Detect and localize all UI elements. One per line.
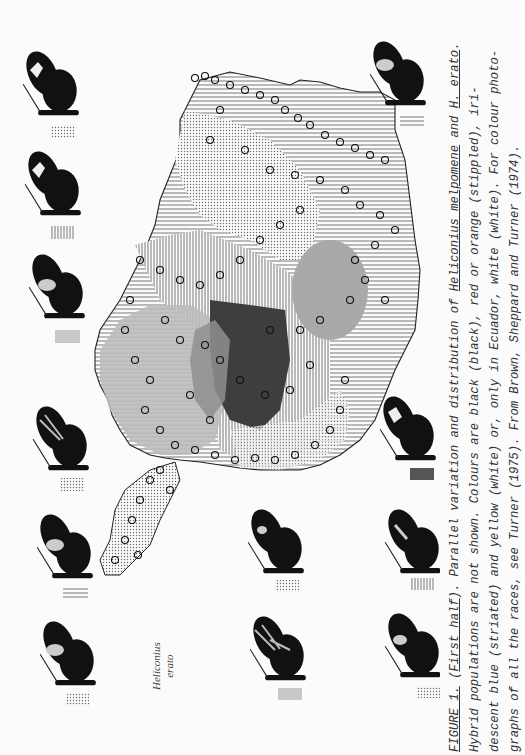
figure-caption: FIGURE 1. (First half). Parallel variati… xyxy=(445,2,525,752)
species-epithet: erato xyxy=(163,642,176,690)
butterfly-10 xyxy=(382,504,440,590)
swatch-light-gray xyxy=(278,688,302,700)
butterfly-2 xyxy=(22,146,81,239)
butterfly-7 xyxy=(247,611,306,700)
butterfly-6 xyxy=(37,616,96,706)
butterfly-4 xyxy=(30,401,89,491)
butterfly-9 xyxy=(382,608,440,698)
butterfly-1 xyxy=(20,46,79,138)
species-genus: Heliconius xyxy=(150,642,163,690)
caption-species-2: H. erato xyxy=(448,50,462,109)
butterfly-3 xyxy=(26,249,85,343)
swatch-stippled xyxy=(60,478,85,491)
swatch-light-gray xyxy=(55,330,80,343)
butterfly-11 xyxy=(377,391,436,480)
swatch-stippled xyxy=(65,693,90,706)
species-label: Heliconius erato xyxy=(150,642,176,690)
swatch-striated xyxy=(410,578,434,590)
swatch-striated xyxy=(63,587,88,600)
caption-line-4: graphs of all the races, see Turner (197… xyxy=(505,2,525,752)
caption-first-half: First half xyxy=(448,598,462,671)
swatch-stippled xyxy=(416,686,440,698)
swatch-striated xyxy=(50,226,75,239)
figure-1: Heliconius erato xyxy=(0,0,440,755)
caption-fig-label: FIGURE 1. xyxy=(448,686,462,752)
caption-line-1: FIGURE 1. (First half). Parallel variati… xyxy=(445,2,465,752)
caption-species-1: Heliconius melpomene xyxy=(448,145,462,291)
swatch-dark-gray xyxy=(410,468,434,480)
caption-line-3: descent blue (striated) and yellow (whit… xyxy=(485,2,505,752)
swatch-stippled xyxy=(50,125,75,138)
caption-line-2: Hybrid populations are not shown. Colour… xyxy=(465,2,485,752)
distribution-map-figure xyxy=(0,0,440,755)
butterfly-8 xyxy=(245,504,304,592)
swatch-striated xyxy=(400,115,424,127)
butterfly-5 xyxy=(34,509,93,600)
swatch-speckle xyxy=(275,580,299,592)
